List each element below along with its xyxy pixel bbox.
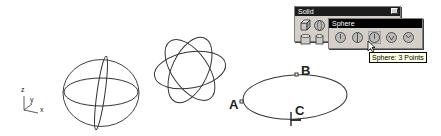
sphere-icon[interactable]: [313, 19, 326, 32]
sphere-fit-icon[interactable]: [402, 31, 415, 44]
close-button[interactable]: [391, 8, 398, 14]
axis-label-z: z: [21, 86, 25, 93]
solid-toolbar-title: Solid: [298, 8, 314, 15]
sphere-flyout-title: Sphere: [332, 20, 355, 27]
cylinder-2-icon[interactable]: [313, 33, 326, 46]
point-label-c: C: [295, 103, 304, 118]
cylinder-icon[interactable]: [299, 33, 312, 46]
point-label-a: A: [229, 97, 238, 112]
point-label-b: B: [301, 63, 310, 78]
box-icon[interactable]: [299, 19, 312, 32]
sphere-flyout-titlebar[interactable]: Sphere: [329, 19, 422, 28]
sphere-center-radius-icon[interactable]: [334, 31, 347, 44]
tooltip: Sphere: 3 Points: [369, 52, 427, 63]
solid-toolbar-titlebar[interactable]: Solid: [295, 7, 400, 16]
axis-label-x: x: [40, 106, 44, 113]
sphere-wireframe-1: [63, 56, 139, 130]
sphere-4-points-icon[interactable]: [385, 31, 398, 44]
sphere-diameter-icon[interactable]: [351, 31, 364, 44]
sphere-wireframe-2: [151, 31, 228, 110]
axis-label-y: y: [30, 96, 34, 103]
